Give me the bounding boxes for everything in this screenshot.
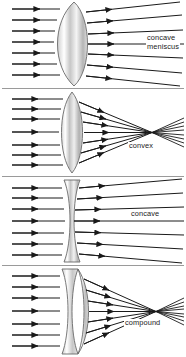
label-line-2: meniscus — [147, 43, 179, 52]
incoming-rays-convex — [12, 99, 63, 165]
compound-lens-rear-element — [78, 269, 89, 354]
panel-concave: concave — [0, 177, 186, 265]
biconvex-lens-shape — [62, 92, 83, 173]
compound-lens-front-element — [62, 269, 78, 354]
panel-concave-meniscus: concave meniscus — [0, 0, 186, 88]
outgoing-rays-concave — [74, 179, 184, 263]
label-convex: convex — [128, 142, 154, 151]
lens-diagram: concave meniscus — [0, 0, 186, 357]
label-concave: concave — [130, 210, 160, 219]
focal-divergence-convex — [152, 118, 184, 147]
incoming-rays-concave — [12, 188, 65, 255]
label-concave-meniscus: concave meniscus — [146, 34, 180, 51]
incoming-rays-meniscus — [12, 9, 60, 75]
incoming-rays-compound — [12, 276, 60, 346]
label-compound: compound — [124, 319, 161, 328]
panel-compound: compound — [0, 266, 186, 357]
meniscus-lens-shape — [58, 2, 88, 86]
outgoing-rays-convex — [79, 102, 152, 163]
outgoing-rays-compound — [84, 279, 156, 344]
panel-convex: convex — [0, 89, 186, 176]
